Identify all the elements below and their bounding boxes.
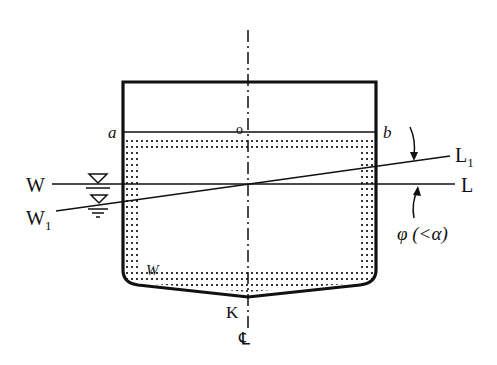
label-angle-phi: φ (<α) [397, 223, 448, 245]
hull-outline [123, 82, 376, 297]
label-b: b [383, 123, 392, 142]
label-L: L [461, 174, 473, 196]
label-L1: L1 [455, 144, 474, 170]
water-level-symbol-upper [86, 174, 110, 188]
label-centerline: ℄ [238, 329, 250, 348]
angle-arrow-top [410, 127, 418, 161]
label-liquid-W: W [146, 262, 160, 278]
liquid-dotted-fill [126, 136, 374, 292]
angle-arrow-bottom [413, 186, 421, 218]
label-a: a [108, 123, 117, 142]
label-W: W [26, 174, 45, 196]
label-o: o [236, 122, 243, 137]
label-W1: W1 [26, 207, 51, 233]
ship-section-diagram: a b o W W1 L L1 φ (<α) W K ℄ [0, 0, 497, 365]
label-K: K [226, 303, 239, 322]
